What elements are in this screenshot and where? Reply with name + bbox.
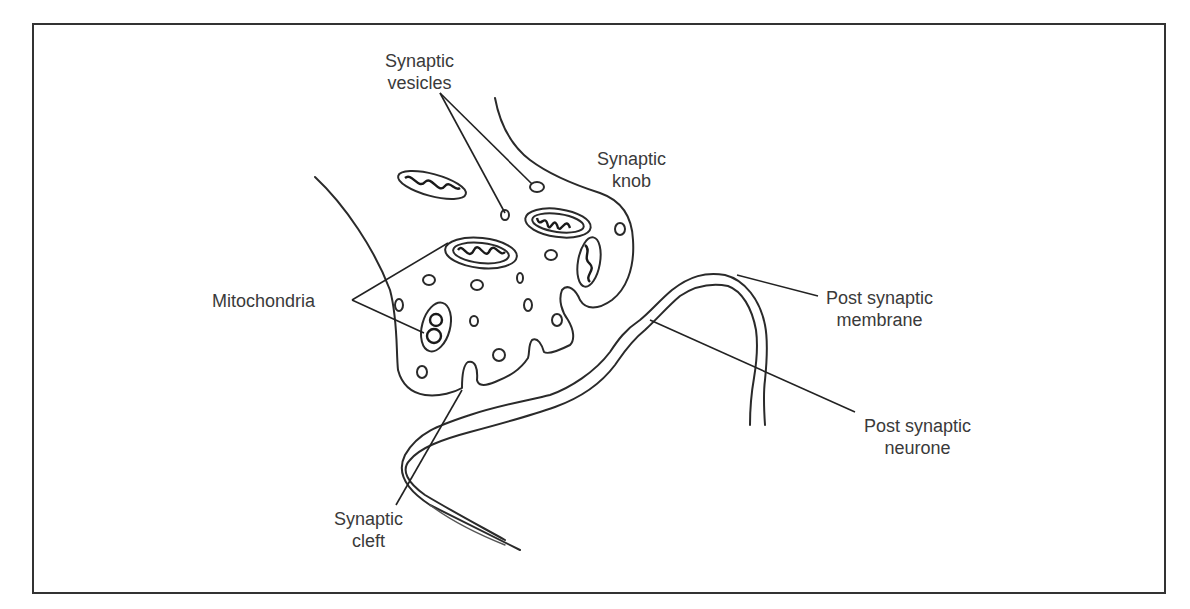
label-line: Post synaptic: [864, 415, 971, 437]
label-synaptic-knob: Synaptic knob: [597, 148, 666, 192]
label-mitochondria: Mitochondria: [212, 290, 315, 312]
label-line: cleft: [334, 530, 403, 552]
synaptic-vesicles: [395, 182, 625, 378]
mitochondrion-4: [574, 235, 604, 288]
postsynaptic-membrane-inner: [406, 285, 757, 540]
label-line: Mitochondria: [212, 290, 315, 312]
synapse-drawing: [0, 0, 1190, 609]
label-line: neurone: [864, 437, 971, 459]
mitochondrion-5: [416, 299, 456, 355]
label-line: membrane: [826, 309, 933, 331]
label-synaptic-vesicles: Synaptic vesicles: [385, 50, 454, 94]
label-line: Synaptic: [597, 148, 666, 170]
mitochondrion-3: [444, 234, 519, 271]
mitochondrion-1: [395, 165, 468, 204]
label-line: Post synaptic: [826, 287, 933, 309]
label-synaptic-cleft: Synaptic cleft: [334, 508, 403, 552]
label-line: vesicles: [385, 72, 454, 94]
label-line: Synaptic: [385, 50, 454, 72]
label-post-synaptic-membrane: Post synaptic membrane: [826, 287, 933, 331]
label-post-synaptic-neurone: Post synaptic neurone: [864, 415, 971, 459]
postsynaptic-membrane-outer: [402, 274, 767, 550]
label-line: Synaptic: [334, 508, 403, 530]
mitochondrion-2: [523, 205, 592, 242]
label-line: knob: [597, 170, 666, 192]
